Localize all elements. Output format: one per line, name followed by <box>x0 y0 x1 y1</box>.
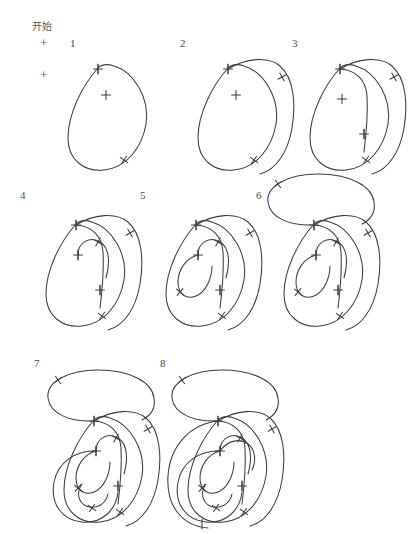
stroke-1 <box>188 417 267 523</box>
stroke-3 <box>94 421 121 504</box>
stroke-1 <box>64 417 143 523</box>
stroke-3 <box>314 225 341 308</box>
stroke-3 <box>340 69 367 152</box>
stroke-3 <box>218 421 245 504</box>
stroke-1 <box>284 221 363 327</box>
stroke-1 <box>166 221 245 327</box>
stroke-5 <box>76 451 110 493</box>
cross-tick-5-b <box>274 181 281 186</box>
cross-tick-2-b <box>364 231 372 236</box>
panel-step-6 <box>246 168 406 338</box>
panel-number-6: 6 <box>256 190 262 201</box>
panel-number-7: 7 <box>34 358 40 369</box>
panel-step-8 <box>150 364 310 534</box>
cross-tick-5-b <box>54 377 61 382</box>
stroke-7 <box>53 451 118 522</box>
cross-tick-2-b <box>390 75 398 80</box>
stroke-8 <box>79 484 108 507</box>
cross-tick-6-b <box>89 504 94 511</box>
panel-drawing-8 <box>150 364 310 534</box>
stroke-5 <box>178 255 212 297</box>
panel-number-8: 8 <box>160 358 166 369</box>
stroke-4 <box>220 436 250 474</box>
cross-tick-2-b <box>268 427 276 432</box>
panel-drawing-6 <box>246 168 406 338</box>
cross-tick-6-b <box>213 504 218 511</box>
stroke-5 <box>200 451 234 493</box>
stroke-3 <box>76 225 103 308</box>
panel-number-2: 2 <box>180 38 186 49</box>
stroke-1 <box>198 65 277 171</box>
stroke-1 <box>68 65 147 171</box>
stroke-3 <box>196 225 223 308</box>
panel-number-5: 5 <box>140 190 146 201</box>
stroke-4 <box>96 436 126 474</box>
stroke-4 <box>316 240 346 278</box>
panel-number-4: 4 <box>20 190 26 201</box>
panel-number-1: 1 <box>70 38 76 49</box>
stroke-1 <box>310 65 389 171</box>
stroke-9 <box>168 421 218 528</box>
stroke-1 <box>46 221 125 327</box>
stroke-5 <box>296 255 330 297</box>
stroke-7 <box>177 451 242 522</box>
stroke-4 <box>78 240 108 278</box>
stroke-8 <box>203 484 232 507</box>
cross-tick-5-b <box>178 377 185 382</box>
panel-number-3: 3 <box>292 38 298 49</box>
stroke-4 <box>198 240 228 278</box>
